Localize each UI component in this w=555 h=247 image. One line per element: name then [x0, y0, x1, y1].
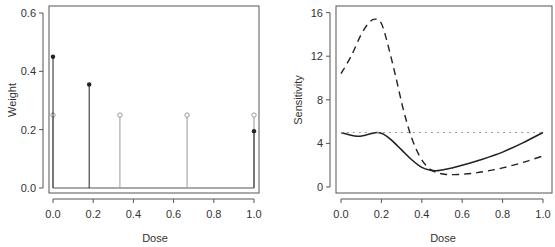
y-tick-label: 0.4	[21, 65, 36, 77]
x-tick-label: 0.0	[45, 208, 60, 220]
x-tick-label: 0.4	[126, 208, 141, 220]
plot-box	[336, 6, 552, 193]
x-tick-label: 1.0	[535, 208, 550, 220]
x-axis: 0.00.20.40.60.81.0	[45, 199, 261, 220]
open-point	[185, 113, 189, 117]
y-tick-label: 12	[311, 50, 323, 62]
x-axis: 0.00.20.40.60.81.0	[333, 199, 550, 220]
y-tick-label: 0	[317, 181, 323, 193]
x-axis-title: Dose	[142, 232, 168, 244]
figure: 0.00.20.40.6 0.00.20.40.60.81.0 Dose Wei…	[0, 0, 555, 247]
filled-point	[87, 82, 91, 86]
filled-point	[51, 55, 55, 59]
sensitivity-line-plot: 0481216 0.00.20.40.60.81.0 Dose Sensitiv…	[292, 6, 552, 244]
weight-stem-plot: 0.00.20.40.6 0.00.20.40.60.81.0 Dose Wei…	[6, 6, 262, 244]
y-tick-label: 16	[311, 7, 323, 19]
y-tick-label: 4	[317, 137, 323, 149]
x-tick-label: 0.6	[455, 208, 470, 220]
y-tick-label: 0.0	[21, 182, 36, 194]
x-tick-label: 0.2	[374, 208, 389, 220]
x-tick-label: 0.4	[414, 208, 429, 220]
x-tick-label: 1.0	[246, 208, 261, 220]
y-tick-label: 0.2	[21, 124, 36, 136]
x-tick-label: 0.6	[166, 208, 181, 220]
y-axis: 0481216	[311, 7, 330, 193]
plot-box	[49, 6, 259, 193]
y-axis-title: Weight	[6, 83, 18, 117]
plot-data	[51, 55, 256, 188]
y-axis-title: Sensitivity	[292, 75, 304, 125]
y-tick-label: 0.6	[21, 7, 36, 19]
dashed-curve	[341, 19, 543, 175]
filled-point	[252, 129, 256, 133]
y-tick-label: 8	[317, 94, 323, 106]
open-point	[118, 113, 122, 117]
x-axis-title: Dose	[430, 232, 456, 244]
x-tick-label: 0.8	[495, 208, 510, 220]
plot-data	[341, 19, 543, 175]
x-tick-label: 0.0	[333, 208, 348, 220]
y-axis: 0.00.20.40.6	[21, 7, 43, 194]
x-tick-label: 0.2	[86, 208, 101, 220]
open-point	[252, 113, 256, 117]
x-tick-label: 0.8	[206, 208, 221, 220]
